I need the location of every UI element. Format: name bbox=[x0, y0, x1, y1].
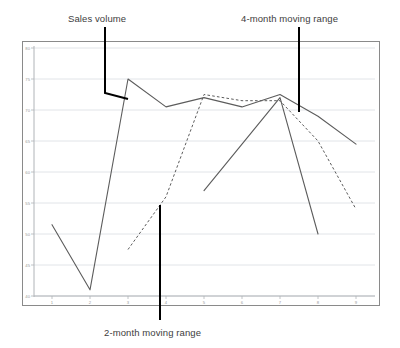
annotation-label-4-month-moving-range: 4-month moving range bbox=[241, 13, 338, 24]
annotation-label-2-month-moving-range: 2-month moving range bbox=[104, 327, 201, 338]
annotation-label-sales-volume: Sales volume bbox=[68, 13, 126, 24]
chart-figure: 80 75 70 65 60 55 50 45 40 1 2 3 4 5 6 7… bbox=[0, 0, 400, 348]
chart-plot-frame bbox=[22, 41, 380, 306]
